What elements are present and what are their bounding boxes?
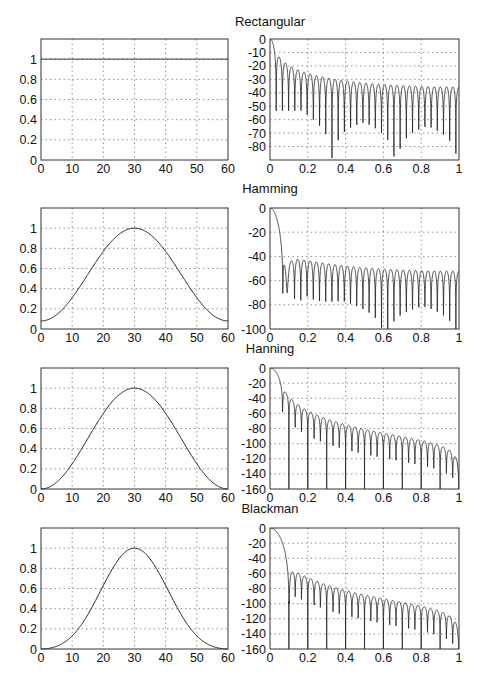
y-tick-label: 0 [259, 33, 266, 47]
y-tick-label: 0 [259, 362, 266, 376]
axes-box [270, 208, 459, 329]
x-tick-label: 30 [128, 331, 142, 345]
x-tick-label: 60 [221, 491, 235, 505]
y-tick-label: 1 [30, 382, 37, 396]
y-tick-label: -60 [248, 113, 266, 127]
y-tick-label: 0.6 [20, 262, 37, 276]
x-tick-label: 1 [456, 651, 463, 665]
y-tick-label: -40 [248, 250, 266, 264]
y-tick-label: 0.6 [20, 582, 37, 596]
y-tick-label: -80 [248, 298, 266, 312]
x-tick-label: 0.2 [299, 491, 316, 505]
y-tick-label: -120 [241, 612, 266, 626]
x-tick-label: 10 [65, 331, 79, 345]
window-row-hamming: 010203040506000.20.40.60.8100.20.40.60.8… [20, 202, 463, 346]
x-tick-label: 0.4 [337, 651, 354, 665]
time-domain-plot: 010203040506000.20.40.60.81 [20, 528, 235, 665]
window-comparison-figure: 010203040506000.20.40.60.8100.20.40.60.8… [0, 0, 479, 679]
y-tick-label: 0.4 [20, 113, 37, 127]
y-tick-label: 1 [30, 222, 37, 236]
window-row-hanning: 010203040506000.20.40.60.8100.20.40.60.8… [20, 362, 463, 506]
y-tick-label: 0.8 [20, 242, 37, 256]
y-tick-label: -60 [248, 407, 266, 421]
y-tick-label: 1 [30, 542, 37, 556]
y-tick-label: -40 [248, 552, 266, 566]
y-tick-label: -120 [241, 452, 266, 466]
x-tick-label: 0.4 [337, 331, 354, 345]
window-row-blackman: 010203040506000.20.40.60.8100.20.40.60.8… [20, 522, 463, 666]
x-tick-label: 40 [159, 491, 173, 505]
x-tick-label: 10 [65, 651, 79, 665]
x-tick-label: 50 [190, 651, 204, 665]
x-tick-label: 0 [38, 491, 45, 505]
x-tick-label: 10 [65, 162, 79, 176]
y-tick-label: -100 [241, 437, 266, 451]
y-tick-label: -50 [248, 100, 266, 114]
x-tick-label: 20 [96, 491, 110, 505]
time-domain-plot: 010203040506000.20.40.60.81 [20, 208, 235, 345]
x-tick-label: 0.2 [299, 331, 316, 345]
y-tick-label: -100 [241, 323, 266, 337]
y-tick-label: 0.2 [20, 462, 37, 476]
x-tick-label: 20 [96, 651, 110, 665]
x-tick-label: 60 [221, 162, 235, 176]
x-tick-label: 50 [190, 331, 204, 345]
x-tick-label: 0 [267, 162, 274, 176]
x-tick-label: 40 [159, 331, 173, 345]
x-tick-label: 60 [221, 651, 235, 665]
y-tick-label: -20 [248, 537, 266, 551]
y-tick-label: 0.4 [20, 282, 37, 296]
y-tick-label: -60 [248, 274, 266, 288]
y-tick-label: -140 [241, 627, 266, 641]
x-tick-label: 10 [65, 491, 79, 505]
y-tick-label: 0 [259, 522, 266, 536]
x-tick-label: 50 [190, 162, 204, 176]
frequency-response-plot: 00.20.40.60.810-10-20-30-40-50-60-70-80 [248, 33, 463, 177]
x-tick-label: 0.6 [375, 331, 392, 345]
x-tick-label: 0 [267, 331, 274, 345]
x-tick-label: 40 [159, 651, 173, 665]
time-domain-plot: 010203040506000.20.40.60.81 [20, 39, 235, 176]
y-tick-label: -40 [248, 86, 266, 100]
y-tick-label: -80 [248, 422, 266, 436]
x-tick-label: 0.8 [413, 331, 430, 345]
x-tick-label: 0.2 [299, 651, 316, 665]
magnitude-response-curve [270, 39, 459, 158]
x-tick-label: 40 [159, 162, 173, 176]
x-tick-label: 20 [96, 331, 110, 345]
x-tick-label: 1 [456, 331, 463, 345]
x-tick-label: 30 [128, 491, 142, 505]
y-tick-label: 0.4 [20, 602, 37, 616]
y-tick-label: -20 [248, 226, 266, 240]
y-tick-label: -30 [248, 73, 266, 87]
x-tick-label: 0.8 [413, 651, 430, 665]
frequency-response-plot: 00.20.40.60.810-20-40-60-80-100-120-140-… [241, 362, 463, 506]
y-tick-label: 0 [30, 154, 37, 168]
y-tick-label: -20 [248, 59, 266, 73]
y-tick-label: 0.8 [20, 73, 37, 87]
x-tick-label: 0 [38, 651, 45, 665]
x-tick-label: 0 [267, 651, 274, 665]
y-tick-label: 0.8 [20, 402, 37, 416]
y-tick-label: 0 [30, 643, 37, 657]
x-tick-label: 30 [128, 162, 142, 176]
y-tick-label: -140 [241, 467, 266, 481]
y-tick-label: -70 [248, 127, 266, 141]
x-tick-label: 0.2 [299, 162, 316, 176]
y-tick-label: -160 [241, 643, 266, 657]
window-curve [41, 388, 228, 489]
time-domain-plot: 010203040506000.20.40.60.81 [20, 368, 235, 505]
x-tick-label: 30 [128, 651, 142, 665]
y-tick-label: -40 [248, 392, 266, 406]
y-tick-label: -100 [241, 597, 266, 611]
x-tick-label: 0.6 [375, 651, 392, 665]
x-tick-label: 0.6 [375, 491, 392, 505]
frequency-response-plot: 00.20.40.60.810-20-40-60-80-100 [241, 202, 463, 346]
window-curve [41, 548, 228, 649]
x-tick-label: 0 [38, 162, 45, 176]
x-tick-label: 1 [456, 162, 463, 176]
y-tick-label: 0.2 [20, 133, 37, 147]
x-tick-label: 20 [96, 162, 110, 176]
x-tick-label: 0.8 [413, 162, 430, 176]
y-tick-label: 0 [259, 202, 266, 216]
